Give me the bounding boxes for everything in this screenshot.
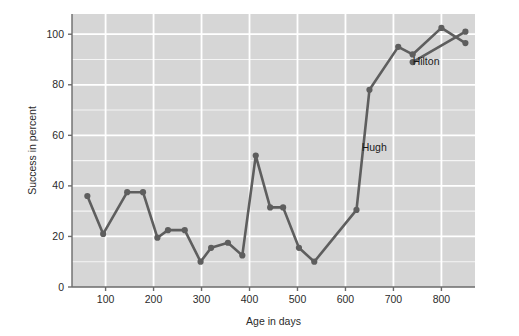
- data-point: [280, 204, 286, 210]
- y-tick-label: 40: [52, 179, 64, 191]
- x-tick-label: 300: [193, 293, 211, 305]
- data-point: [462, 29, 468, 35]
- x-tick-label: 800: [433, 293, 451, 305]
- data-point: [366, 87, 372, 93]
- data-point: [353, 207, 359, 213]
- y-tick-label: 0: [58, 281, 64, 293]
- data-point: [140, 189, 146, 195]
- y-tick-label: 20: [52, 230, 64, 242]
- data-point: [182, 227, 188, 233]
- data-point: [225, 240, 231, 246]
- x-tick-label: 100: [97, 293, 115, 305]
- data-point: [208, 245, 214, 251]
- data-point: [239, 252, 245, 258]
- y-tick-label: 80: [52, 78, 64, 90]
- data-point: [253, 152, 259, 158]
- data-point: [197, 259, 203, 265]
- data-point: [438, 25, 444, 31]
- data-point: [100, 231, 106, 237]
- data-point: [154, 235, 160, 241]
- chart-container: 020406080100 100200300400500600700800 Su…: [0, 0, 519, 336]
- data-point: [311, 259, 317, 265]
- series-label-hugh: Hugh: [362, 141, 387, 153]
- y-axis-title: Success in percent: [26, 106, 38, 195]
- y-tick-label: 100: [46, 28, 64, 40]
- x-tick-label: 700: [385, 293, 403, 305]
- x-tick-label: 200: [145, 293, 163, 305]
- data-point: [124, 189, 130, 195]
- series-label-hilton: Hilton: [413, 55, 440, 67]
- line-chart: 020406080100 100200300400500600700800 Su…: [0, 0, 519, 336]
- data-point: [84, 193, 90, 199]
- x-axis-title: Age in days: [246, 315, 301, 327]
- data-point: [395, 44, 401, 50]
- data-point: [165, 227, 171, 233]
- data-point: [296, 245, 302, 251]
- y-tick-label: 60: [52, 129, 64, 141]
- x-tick-label: 400: [241, 293, 259, 305]
- x-tick-label: 600: [337, 293, 355, 305]
- data-point: [462, 40, 468, 46]
- data-point: [267, 204, 273, 210]
- x-tick-label: 500: [289, 293, 307, 305]
